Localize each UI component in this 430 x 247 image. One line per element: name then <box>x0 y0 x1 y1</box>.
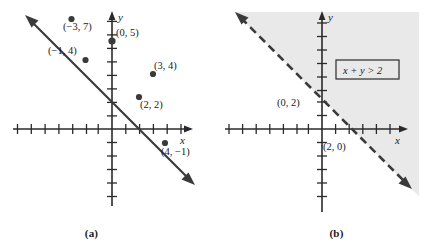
y-axis-label-b: y <box>327 11 333 23</box>
x-axis-label-a: x <box>179 134 185 146</box>
x-axis-label-b: x <box>394 134 400 146</box>
panel-b: (0, 2) (2, 0) x + y > 2 x y (b) <box>215 0 430 247</box>
panel-a-caption: (a) <box>0 227 199 239</box>
data-point <box>108 37 115 44</box>
point-label-2-2: (2, 2) <box>140 99 163 111</box>
point-label-3-4: (3, 4) <box>154 60 177 72</box>
x-axis-a <box>13 126 193 133</box>
point-label-0-5: (0, 5) <box>116 27 139 39</box>
y-axis-label-a: y <box>117 11 123 23</box>
inequality-label: x + y > 2 <box>342 65 383 76</box>
point-label-neg3-7: (−3, 7) <box>63 21 92 33</box>
point-label-0-2: (0, 2) <box>277 97 300 109</box>
graph-a: (−3, 7) (−1, 4) (0, 5) (3, 4) (2, 2) (4,… <box>0 0 215 247</box>
graph-b: (0, 2) (2, 0) x + y > 2 x y <box>215 0 430 247</box>
panel-a: (−3, 7) (−1, 4) (0, 5) (3, 4) (2, 2) (4,… <box>0 0 215 247</box>
point-label-neg1-4: (−1, 4) <box>48 45 77 57</box>
inequality-box: x + y > 2 <box>336 60 399 79</box>
panel-b-caption: (b) <box>229 227 430 239</box>
point-label-4-neg1: (4, −1) <box>161 146 190 158</box>
point-label-2-0: (2, 0) <box>323 141 346 153</box>
data-point <box>82 57 88 63</box>
data-point <box>150 71 156 77</box>
